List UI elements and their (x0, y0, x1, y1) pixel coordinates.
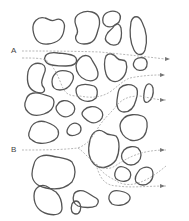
grain (130, 17, 146, 55)
grain (75, 11, 100, 44)
grain (34, 185, 62, 214)
grain (120, 115, 147, 141)
outlet-arrows (160, 57, 170, 188)
inlet-label-a: A (11, 47, 16, 55)
grain (82, 107, 103, 123)
arrow-right-icon (160, 98, 165, 102)
arrow-right-icon (165, 57, 170, 61)
arrow-right-icon (160, 148, 165, 152)
grain (135, 167, 153, 185)
arrow-right-icon (160, 73, 165, 77)
grain (133, 58, 147, 71)
grain (144, 84, 154, 103)
grain (33, 18, 65, 44)
grain (27, 63, 45, 93)
grain (76, 56, 98, 81)
grain (32, 155, 75, 188)
grains (25, 11, 154, 215)
diagram-canvas (0, 0, 189, 221)
grain (56, 101, 75, 117)
grain (109, 191, 130, 206)
grain (121, 147, 141, 165)
grain (25, 93, 54, 115)
grain (67, 123, 81, 135)
grain (115, 167, 131, 182)
grain (76, 85, 97, 102)
grain (29, 121, 59, 143)
grain (45, 53, 77, 66)
grain (73, 191, 98, 208)
flow-paths (22, 51, 166, 187)
grain (105, 54, 127, 82)
grain (117, 85, 138, 112)
porous-media-diagram: A B (0, 0, 189, 221)
arrow-right-icon (160, 184, 165, 188)
grain (71, 201, 81, 214)
grain (89, 130, 119, 167)
inlet-label-b: B (11, 146, 16, 154)
